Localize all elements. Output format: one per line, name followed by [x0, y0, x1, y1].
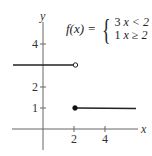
closed-dot-marker	[73, 106, 78, 111]
x-tick-label-4: 4	[102, 132, 108, 146]
y-tick-label-1: 1	[32, 101, 38, 115]
y-axis-label: y	[39, 9, 46, 23]
case-1-condition: x < 2	[123, 15, 148, 29]
case-2-value: 1	[114, 28, 120, 42]
function-label: f(x) =	[66, 21, 96, 37]
y-tick-label-4: 4	[32, 37, 38, 51]
brace-glyph: {	[102, 14, 111, 44]
case-row-2: 1 x ≥ 2	[114, 29, 148, 42]
function-definition: f(x) = { 3 x < 2 1 x ≥ 2	[66, 14, 149, 44]
function-cases: 3 x < 2 1 x ≥ 2	[114, 16, 148, 42]
x-axis-label: x	[140, 122, 147, 136]
case-1-value: 3	[114, 15, 120, 29]
y-tick-label-2: 2	[32, 80, 38, 94]
x-tick-label-2: 2	[71, 132, 77, 146]
open-circle-marker	[73, 63, 77, 67]
series-line-lower	[75, 108, 136, 109]
case-2-condition: x ≥ 2	[123, 28, 147, 42]
